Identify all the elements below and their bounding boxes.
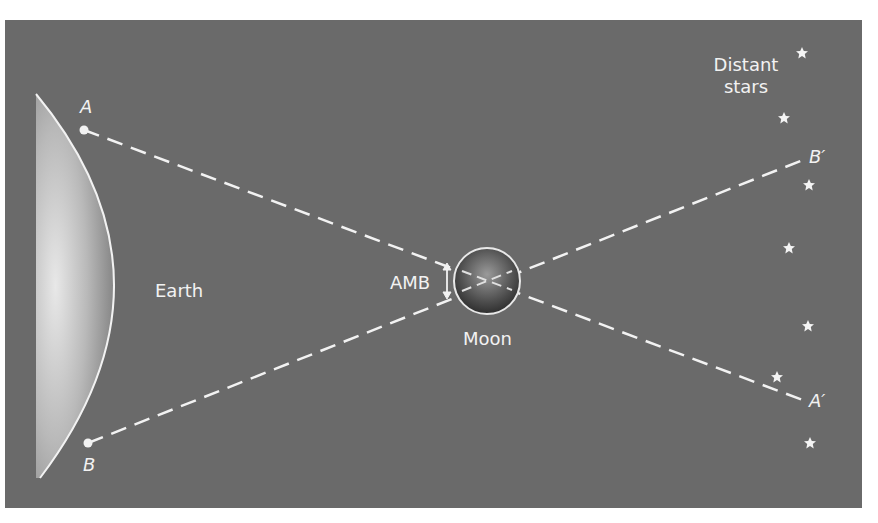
star-icon	[796, 47, 808, 59]
point-b-prime-label: B′	[809, 146, 825, 167]
earth-label: Earth	[155, 280, 203, 301]
earth-shape	[36, 94, 114, 478]
moon-shape	[454, 248, 520, 314]
point-b-marker	[84, 439, 93, 448]
distant-stars	[771, 47, 816, 449]
point-b-label: B	[83, 454, 95, 475]
point-a-marker	[80, 126, 89, 135]
point-a-label: A	[80, 96, 92, 117]
distant-stars-label-line2: stars	[706, 76, 786, 97]
star-icon	[804, 437, 816, 449]
point-a-prime-label: A′	[809, 390, 825, 411]
moon-label: Moon	[463, 328, 512, 349]
star-icon	[802, 320, 814, 332]
distant-stars-label-line1: Distant	[706, 54, 786, 75]
angle-amb-label: AMB	[390, 272, 430, 293]
star-icon	[771, 371, 783, 383]
star-icon	[803, 179, 815, 191]
star-icon	[783, 242, 795, 254]
angle-arrow-icon	[443, 263, 451, 299]
star-icon	[778, 112, 790, 124]
